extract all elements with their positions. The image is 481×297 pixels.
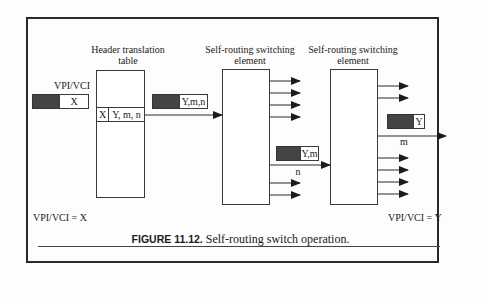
arrows-layer <box>0 0 481 297</box>
figure-caption-text: Self-routing switch operation. <box>206 232 350 246</box>
caption-rule <box>38 246 440 247</box>
right-note: VPI/VCI = Y <box>388 212 442 223</box>
figure-label: FIGURE 11.12. <box>132 233 203 245</box>
left-note: VPI/VCI = X <box>33 212 87 223</box>
figure-caption: FIGURE 11.12. Self-routing switch operat… <box>0 232 481 247</box>
